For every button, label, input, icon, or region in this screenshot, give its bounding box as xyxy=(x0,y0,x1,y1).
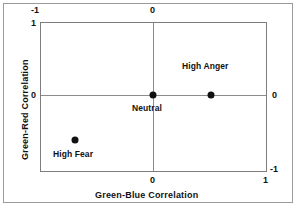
x-axis-title: Green-Blue Correlation xyxy=(95,190,198,200)
y-axis-tick-right-minus-one: -1 xyxy=(270,164,278,174)
x-axis-tick-bottom-one: 1 xyxy=(263,175,268,185)
data-point-high-anger[interactable] xyxy=(208,92,215,99)
y-axis-tick-right-zero: 0 xyxy=(272,90,277,100)
x-axis-tick-top-zero: 0 xyxy=(150,5,155,15)
plot-area: High Anger Neutral High Fear xyxy=(40,22,267,172)
data-label-high-anger: High Anger xyxy=(182,61,229,71)
x-axis-tick-bottom-zero: 0 xyxy=(150,175,155,185)
data-label-high-fear: High Fear xyxy=(53,149,93,159)
data-label-neutral: Neutral xyxy=(132,103,162,113)
y-axis-tick-left-zero: 0 xyxy=(31,90,36,100)
y-axis-tick-left-one: 1 xyxy=(31,18,36,28)
data-point-neutral[interactable] xyxy=(150,92,157,99)
y-axis-title: Green-Red Correlation xyxy=(20,59,30,160)
scatter-plot-figure: -1 0 1 0 0 -1 0 1 Green-Red Correlation … xyxy=(0,0,298,209)
x-axis-tick-top-minus-one: -1 xyxy=(31,5,39,15)
data-point-high-fear[interactable] xyxy=(72,137,79,144)
